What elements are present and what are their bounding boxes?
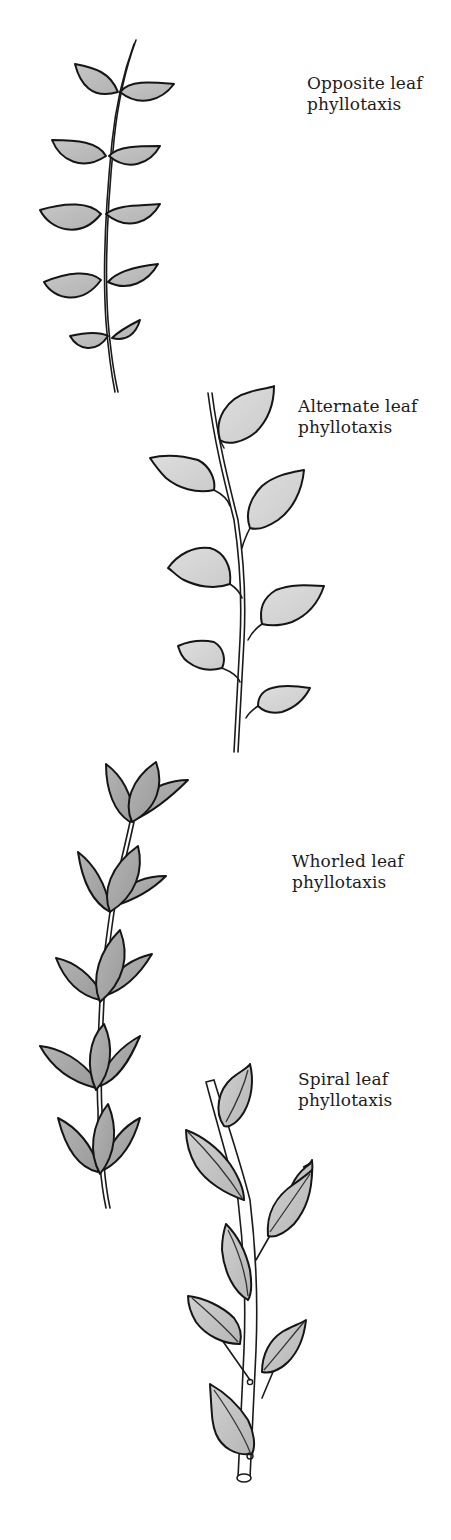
leaf-whorl-3a xyxy=(56,958,102,1000)
petiole xyxy=(246,706,258,718)
leaf-whorl-2b xyxy=(107,846,140,912)
phyllotaxis-figure: Opposite leaf phyllotaxis Alternate leaf… xyxy=(0,0,451,1540)
label-alternate-line1: Alternate leaf xyxy=(298,396,417,417)
leaf-opposite-1-left xyxy=(75,64,118,94)
label-opposite-line2: phyllotaxis xyxy=(307,94,423,115)
leaf-whorl-2a xyxy=(78,852,110,912)
label-alternate-line2: phyllotaxis xyxy=(298,417,417,438)
label-whorled-line2: phyllotaxis xyxy=(292,872,404,893)
leaf-opposite-1-right xyxy=(120,82,174,100)
leaf-opposite-5-left xyxy=(70,333,108,348)
leaf-whorl-1b xyxy=(129,762,160,822)
illustration-canvas xyxy=(0,0,451,1540)
leaf-alternate-2 xyxy=(150,456,214,491)
leaf-opposite-4-right xyxy=(108,264,158,286)
leaf-alternate-1 xyxy=(218,386,274,443)
label-whorled: Whorled leaf phyllotaxis xyxy=(292,851,404,893)
label-spiral-line1: Spiral leaf xyxy=(298,1069,392,1090)
leaf-alternate-5 xyxy=(261,585,324,625)
opposite-phyllotaxis-drawing xyxy=(40,40,174,392)
stem-cut-end xyxy=(237,1474,251,1482)
label-whorled-line1: Whorled leaf xyxy=(292,851,404,872)
leaf-whorl-3b xyxy=(96,930,125,1002)
leaf-opposite-2-left xyxy=(52,140,106,163)
petiole xyxy=(242,528,250,548)
alternate-phyllotaxis-drawing xyxy=(150,386,324,752)
leaf-opposite-3-left xyxy=(40,204,101,229)
label-opposite-line1: Opposite leaf xyxy=(307,73,423,94)
leaf-alternate-6 xyxy=(178,641,224,670)
leaf-opposite-4-left xyxy=(44,273,101,297)
leaf-whorl-4a xyxy=(40,1046,96,1088)
leaf-opposite-5-right xyxy=(112,320,140,339)
label-alternate: Alternate leaf phyllotaxis xyxy=(298,396,417,438)
label-spiral: Spiral leaf phyllotaxis xyxy=(298,1069,392,1111)
label-spiral-line2: phyllotaxis xyxy=(298,1090,392,1111)
leaf-alternate-4 xyxy=(168,548,230,587)
leaf-alternate-7 xyxy=(258,686,310,713)
leaf-alternate-3 xyxy=(248,470,304,529)
label-opposite: Opposite leaf phyllotaxis xyxy=(307,73,423,115)
spiral-phyllotaxis-drawing xyxy=(186,1064,312,1482)
leaf-opposite-3-right xyxy=(106,204,160,223)
leaf-whorl-5a xyxy=(58,1118,98,1172)
whorled-phyllotaxis-drawing xyxy=(40,762,188,1208)
petiole xyxy=(248,624,262,640)
leaf-opposite-2-right xyxy=(109,146,160,165)
